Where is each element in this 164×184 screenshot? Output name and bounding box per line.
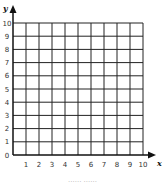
- x-axis-arrow-icon: [148, 152, 156, 159]
- x-tick-label: 6: [89, 161, 94, 169]
- y-tick-label: 1: [5, 138, 9, 146]
- x-tick-label: 5: [76, 161, 80, 169]
- x-tick-label: 10: [139, 161, 148, 169]
- x-tick-label: 8: [115, 161, 119, 169]
- x-tick-labels: 12345678910: [24, 161, 148, 169]
- y-axis-label: y: [2, 3, 9, 13]
- y-tick-labels: 012345678910: [3, 20, 12, 160]
- y-tick-label: 3: [5, 112, 9, 120]
- y-tick-label: 6: [5, 72, 10, 80]
- y-tick-label: 2: [5, 125, 9, 133]
- y-tick-label: 8: [5, 46, 9, 54]
- y-tick-label: 0: [5, 152, 9, 160]
- axes: [10, 5, 157, 159]
- caption: ...... ......: [68, 176, 97, 184]
- y-axis-arrow-icon: [10, 5, 17, 13]
- y-tick-label: 9: [5, 33, 9, 41]
- y-tick-label: 5: [5, 86, 9, 94]
- y-tick-label: 4: [5, 99, 10, 107]
- x-axis-label: x: [156, 158, 162, 168]
- x-tick-label: 9: [128, 161, 132, 169]
- x-tick-label: 2: [37, 161, 41, 169]
- y-tick-label: 7: [5, 59, 9, 67]
- y-tick-label: 10: [3, 20, 12, 28]
- coordinate-grid: 12345678910 012345678910 x y ...... ....…: [0, 0, 164, 184]
- x-tick-label: 7: [102, 161, 106, 169]
- x-tick-label: 1: [24, 161, 28, 169]
- gridlines: [13, 23, 143, 155]
- x-tick-label: 3: [50, 161, 54, 169]
- x-tick-label: 4: [63, 161, 68, 169]
